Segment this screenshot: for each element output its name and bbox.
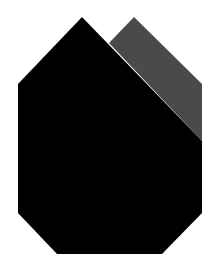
abstract-shape-graphic	[0, 0, 218, 270]
figure-canvas	[0, 0, 218, 270]
